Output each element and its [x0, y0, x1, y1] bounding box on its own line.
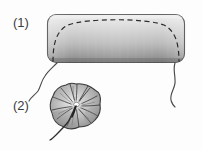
gathered-fabric-rosette — [48, 83, 106, 140]
reference-label-2: (2) — [13, 99, 29, 112]
rounded-rectangle-panel — [47, 14, 185, 63]
figure-canvas — [0, 0, 202, 150]
patent-figure: (1) (2) — [0, 0, 202, 150]
panel-sheen — [47, 14, 185, 63]
reference-label-1: (1) — [13, 16, 29, 29]
drawstring-cord-right — [171, 63, 175, 107]
